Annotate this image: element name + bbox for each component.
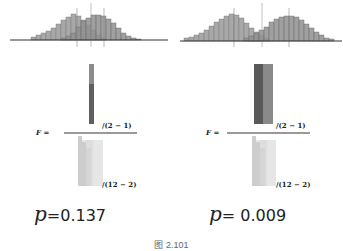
p-value-right: p= 0.009 [209, 202, 286, 226]
p-number: = 0.009 [222, 206, 286, 225]
denominator-df: /(12 − 2) [276, 180, 311, 189]
f-label: F = [36, 128, 49, 137]
numerator-bar-top [89, 64, 94, 84]
denominator-df: /(12 − 2) [102, 180, 137, 189]
f-ratio-diagram-right [172, 55, 343, 195]
numerator-df: /(2 − 1) [102, 121, 132, 130]
histogram-left [0, 0, 171, 50]
figure-caption: 图 2.101 [0, 238, 343, 251]
histogram-right [172, 0, 343, 50]
numerator-bar-light [263, 64, 273, 124]
p-number: =0.137 [47, 206, 106, 225]
p-value-left: p=0.137 [34, 202, 106, 226]
numerator-df: /(2 − 1) [276, 121, 306, 130]
p-symbol: p [34, 202, 47, 226]
numerator-bar-bottom [89, 84, 94, 124]
panel-left-low-separation: F = /(2 − 1) /(12 − 2) p=0.137 [0, 0, 171, 247]
p-symbol: p [209, 202, 222, 226]
f-label: F = [206, 128, 219, 137]
numerator-bar-dark [254, 64, 263, 124]
panel-right-high-separation: F = /(2 − 1) /(12 − 2) p= 0.009 [172, 0, 343, 247]
f-ratio-diagram-left [0, 55, 171, 195]
